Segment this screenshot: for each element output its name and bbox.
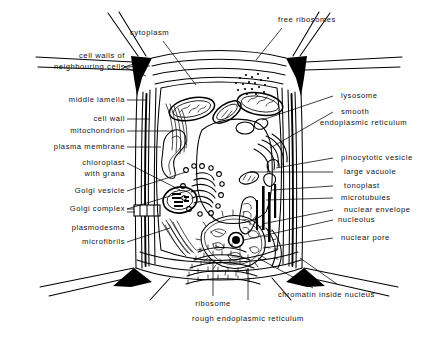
- plasmodesma: [134, 205, 160, 216]
- middle-lamella-left: [145, 94, 146, 266]
- label-ribosome: ribosome: [178, 299, 248, 309]
- label-nuclear-pore: nuclear pore: [341, 233, 390, 243]
- label-smooth-endoplasmic-reticulum-line1: smooth: [341, 107, 369, 117]
- pinocytotic-vesicles: [238, 159, 279, 186]
- grana: [172, 193, 189, 207]
- label-cytoplasm: cytoplasm: [130, 28, 169, 38]
- label-golgi-vesicle: Golgi vesicle: [0, 186, 125, 196]
- label-cell-walls-of-neighbouring-cells-line1: cell walls of: [0, 51, 125, 61]
- label-plasmodesma: plasmodesma: [0, 223, 125, 233]
- label-microtubules: microtubuies: [341, 193, 391, 203]
- golgi-complex: [181, 164, 225, 217]
- smooth-endoplasmic-reticulum: [254, 134, 287, 172]
- label-chloroplast-with-grana-line2: with grana: [0, 169, 125, 179]
- label-cell-wall: cell wall: [0, 114, 125, 124]
- mitochondrion-left-mid: [162, 130, 186, 179]
- label-smooth-endoplasmic-reticulum-line2: endoplasmic reticulum: [320, 118, 407, 128]
- label-lysosome: lysosome: [341, 91, 377, 101]
- label-nuclear-envelope: nuclear envelope: [344, 205, 411, 215]
- cytoplasm-strands: [165, 104, 196, 254]
- nucleus: [196, 210, 270, 276]
- label-cell-walls-of-neighbouring-cells-line2: neighbouring cells: [0, 62, 125, 72]
- label-golgi-complex: Golgi complex: [0, 204, 125, 214]
- cell-wall-top: [152, 51, 286, 85]
- label-rough-endoplasmic-reticulum: rough endoplasmic reticulum: [168, 314, 328, 324]
- microfibrils: [162, 219, 194, 256]
- label-chromatin-inside-nucleus: chromatin inside nucleus: [278, 290, 375, 300]
- large-vacuole: [197, 119, 273, 223]
- label-large-vacuole: large vacuole: [344, 167, 396, 177]
- mitochondrion-chloroplast-left: [161, 185, 198, 215]
- label-nucleolus: nucleolus: [338, 215, 375, 225]
- nuclear-pores: [196, 210, 270, 276]
- mitochondrion-right-lower: [239, 197, 257, 234]
- label-pinocytotic-vesicle: pinocytotic vesicle: [341, 153, 413, 163]
- middle-lamella-right: [292, 94, 293, 266]
- label-tonoplast: tonoplast: [344, 181, 380, 191]
- cell-wall-bottom: [136, 252, 302, 280]
- label-mitochondrion: mitochondrion: [0, 126, 125, 136]
- plant-cell-diagram-figure: .k{fill:none;stroke:#000;stroke-width:1.…: [0, 0, 438, 341]
- golgi-vesicles: [181, 164, 225, 217]
- label-plasma-membrane: plasma membrane: [0, 142, 125, 152]
- label-chloroplast-with-grana-line1: chloroplast: [0, 158, 125, 168]
- label-free-ribosomes: free ribosomes: [278, 15, 336, 25]
- label-microfibrils: microfibrils: [0, 237, 125, 247]
- label-middle-lamella: middle lamella: [0, 95, 125, 105]
